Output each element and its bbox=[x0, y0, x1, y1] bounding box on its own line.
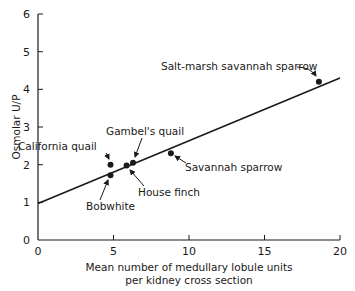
x-axis-title-line1: Mean number of medullary lobule units bbox=[85, 261, 292, 273]
point-salt-marsh-savannah-sparrow bbox=[316, 79, 322, 85]
annotation-gambels-quail: Gambel's quail bbox=[106, 125, 184, 137]
x-tick-label: 10 bbox=[182, 245, 196, 258]
annotation-california-quail: California quail bbox=[18, 140, 97, 152]
point-california-quail bbox=[108, 162, 114, 168]
y-tick-label: 6 bbox=[23, 8, 30, 21]
y-tick-label: 0 bbox=[23, 234, 30, 247]
annotation-bobwhite: Bobwhite bbox=[86, 200, 135, 212]
y-tick-label: 3 bbox=[23, 121, 30, 134]
point-gambels-quail bbox=[130, 160, 136, 166]
x-tick-label: 20 bbox=[333, 245, 347, 258]
point-house-finch bbox=[124, 163, 130, 169]
y-tick-label: 4 bbox=[23, 83, 30, 96]
axes bbox=[38, 14, 340, 240]
chart: 0 1 2 3 4 5 6 0 5 10 15 20 Osmolar U/P M… bbox=[0, 0, 355, 291]
y-tick-label: 1 bbox=[23, 196, 30, 209]
x-tick-labels: 0 5 10 15 20 bbox=[35, 245, 348, 258]
point-savannah-sparrow bbox=[168, 150, 174, 156]
point-bobwhite bbox=[108, 172, 114, 178]
x-tick-label: 15 bbox=[258, 245, 272, 258]
y-tick-label: 2 bbox=[23, 159, 30, 172]
annotation-house-finch: House finch bbox=[138, 186, 200, 198]
annotations: California quail Bobwhite House finch Ga… bbox=[18, 60, 318, 212]
x-axis-title-line2: per kidney cross section bbox=[125, 274, 253, 286]
x-tick-label: 0 bbox=[35, 245, 42, 258]
annotation-salt-marsh-savannah-sparrow: Salt-marsh savannah sparrow bbox=[161, 60, 318, 72]
x-tick-label: 5 bbox=[110, 245, 117, 258]
annotation-savannah-sparrow: Savannah sparrow bbox=[185, 161, 283, 173]
y-tick-label: 5 bbox=[23, 46, 30, 59]
y-tick-labels: 0 1 2 3 4 5 6 bbox=[23, 8, 30, 247]
